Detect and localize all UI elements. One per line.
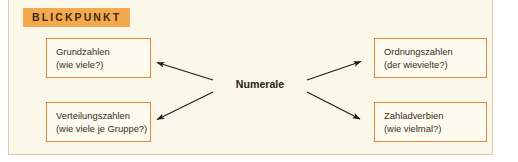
node-ordnungszahlen-question: (der wievielte?) (384, 58, 486, 72)
node-grundzahlen-title: Grundzahlen (56, 45, 150, 59)
node-zahladverbien-title: Zahladverbien (384, 109, 486, 123)
node-verteilungszahlen-title: Verteilungszahlen (56, 109, 150, 123)
node-ordnungszahlen-title: Ordnungszahlen (384, 45, 486, 59)
node-grundzahlen-question: (wie viele?) (56, 58, 150, 72)
node-grundzahlen: Grundzahlen (wie viele?) (46, 38, 151, 78)
node-zahladverbien: Zahladverbien (wie vielmal?) (374, 102, 487, 142)
blickpunkt-badge-label: BLICKPUNKT (32, 12, 121, 23)
node-verteilungszahlen-question: (wie viele je Gruppe?) (56, 122, 150, 136)
node-ordnungszahlen: Ordnungszahlen (der wievielte?) (374, 38, 487, 78)
node-zahladverbien-question: (wie vielmal?) (384, 122, 486, 136)
screenshot-root: BLICKPUNKT Grundzahlen (wie viele?) Vert… (0, 0, 518, 162)
center-label-numerale: Numerale (213, 78, 307, 91)
node-verteilungszahlen: Verteilungszahlen (wie viele je Gruppe?) (46, 102, 151, 142)
blickpunkt-badge: BLICKPUNKT (23, 8, 130, 27)
